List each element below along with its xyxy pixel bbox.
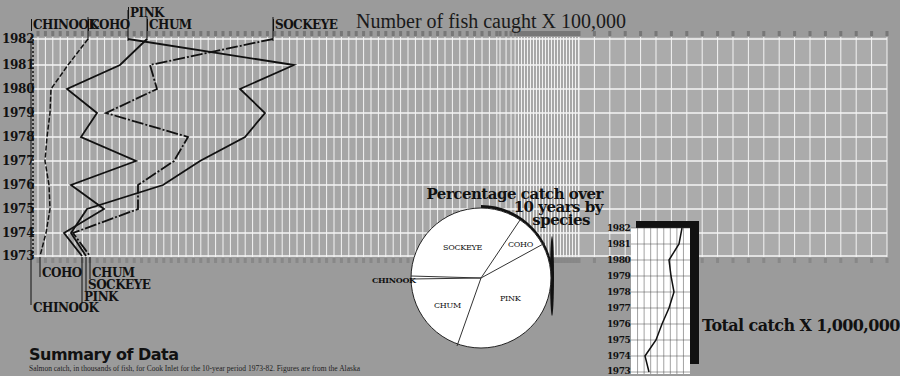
summary-body: Salmon catch, in thousands of fish, for … [29,364,439,373]
year-label: 1982 [2,32,34,46]
legend-top-sockeye: SOCKEYE [273,19,337,31]
total-year-label: 1982 [607,223,630,233]
total-year-label: 1973 [607,366,630,376]
pie-label-pink: PINK [500,294,520,303]
year-label: 1976 [2,178,34,192]
legend-bottom-chinook: CHINOOK [33,302,98,314]
total-year-label: 1979 [607,271,630,281]
total-year-label: 1975 [607,335,630,345]
pie-label-chinook: CHINOOK [372,275,416,285]
total-chart-bg [631,228,690,374]
legend-top-coho: COHO [88,19,130,31]
year-label: 1980 [2,82,34,96]
year-label: 1979 [2,106,34,120]
year-label: 1973 [2,249,34,263]
pie-label-sockeye: SOCKEYE [443,243,482,252]
summary-heading: Summary of Data [29,345,179,364]
year-label: 1981 [2,58,34,72]
main-chart-title: Number of fish caught X 100,000 [356,10,626,33]
total-year-label: 1976 [607,319,630,329]
year-label: 1978 [2,130,34,144]
total-year-label: 1978 [607,287,630,297]
total-year-label: 1974 [607,351,630,361]
total-catch-chart [631,221,699,374]
legend-top-chum: CHUM [147,19,192,31]
total-year-label: 1977 [607,303,630,313]
year-label: 1977 [2,154,34,168]
total-year-label: 1981 [607,239,630,249]
year-label: 1974 [2,226,34,240]
pie-title-line3: species [418,213,590,228]
year-label: 1975 [2,202,34,216]
legend-bottom-coho: COHO [42,267,82,279]
total-year-label: 1980 [607,255,630,265]
pie-label-chum: CHUM [434,301,461,310]
pie-label-coho: COHO [508,240,533,249]
total-catch-title: Total catch X 1,000,000 [702,316,900,335]
